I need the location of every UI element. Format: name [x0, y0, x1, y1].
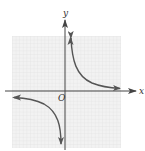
hyperbola-graph: y x O [0, 0, 145, 151]
x-axis-label: x [139, 86, 144, 96]
y-axis-label: y [62, 8, 69, 18]
grid-background [12, 36, 121, 148]
origin-label: O [58, 93, 66, 103]
